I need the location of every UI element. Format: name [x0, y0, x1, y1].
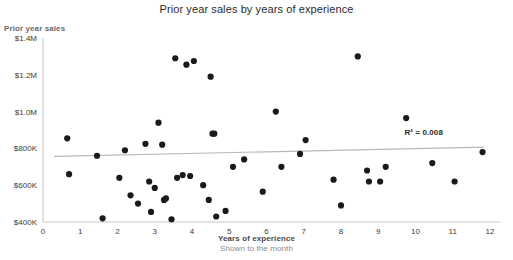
data-point	[230, 164, 236, 170]
data-point	[180, 172, 186, 178]
data-point	[364, 167, 370, 173]
y-tick-label: $1.0M	[15, 108, 38, 117]
data-point	[338, 202, 344, 208]
data-point	[452, 178, 458, 184]
data-point	[403, 115, 409, 121]
data-point-group	[64, 53, 486, 222]
data-point	[222, 208, 228, 214]
data-point	[100, 215, 106, 221]
y-tick-label-group: $400K$600K$800K$1.0M$1.2M$1.4M	[14, 34, 38, 227]
data-point	[366, 178, 372, 184]
data-point	[211, 131, 217, 137]
data-point	[278, 164, 284, 170]
data-point	[303, 137, 309, 143]
x-axis-subtitle: Shown to the month	[0, 244, 513, 253]
data-point	[116, 175, 122, 181]
r-squared-annotation: R² = 0.008	[404, 128, 443, 137]
data-point	[355, 53, 361, 59]
scatter-chart: Prior year sales by years of experience …	[0, 0, 513, 260]
data-point	[479, 149, 485, 155]
data-point	[297, 151, 303, 157]
data-point	[208, 74, 214, 80]
x-axis-title: Years of experience	[0, 234, 513, 243]
data-point	[168, 216, 174, 222]
data-point	[187, 173, 193, 179]
data-point	[155, 120, 161, 126]
data-point	[148, 209, 154, 215]
y-tick-label: $600K	[14, 181, 38, 190]
data-point	[174, 175, 180, 181]
y-tick-label: $1.2M	[15, 71, 38, 80]
data-point	[213, 213, 219, 219]
data-point	[64, 135, 70, 141]
data-point	[330, 177, 336, 183]
data-point	[206, 197, 212, 203]
data-point	[200, 182, 206, 188]
data-point	[142, 141, 148, 147]
data-point	[146, 178, 152, 184]
y-tick-label: $400K	[14, 218, 38, 227]
data-point	[94, 153, 100, 159]
data-point	[241, 156, 247, 162]
trendline	[54, 147, 484, 156]
data-point	[152, 185, 158, 191]
y-tick-label: $1.4M	[15, 34, 38, 43]
data-point	[135, 201, 141, 207]
data-point	[183, 62, 189, 68]
data-point	[66, 171, 72, 177]
y-tick-label: $800K	[14, 144, 38, 153]
data-point	[429, 160, 435, 166]
data-point	[127, 192, 133, 198]
data-point	[260, 189, 266, 195]
data-point	[122, 147, 128, 153]
data-point	[377, 178, 383, 184]
data-point	[273, 109, 279, 115]
data-point	[163, 195, 169, 201]
data-point	[383, 164, 389, 170]
data-point	[191, 58, 197, 64]
data-point	[159, 142, 165, 148]
data-point	[172, 55, 178, 61]
